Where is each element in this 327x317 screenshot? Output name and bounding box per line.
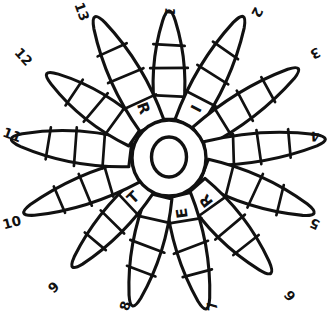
petal-number-label-10: 10 [1, 212, 23, 232]
petal-number-label-5: 5 [307, 215, 322, 233]
petal-number-label-1: 1 [162, 7, 179, 18]
petal-1-segment-divider [153, 44, 184, 46]
petal-number-label-4: 4 [310, 129, 320, 145]
petal-number-label-2: 2 [248, 5, 267, 21]
center-inner-hole [152, 137, 187, 177]
petal-number-label-13: 13 [72, 0, 93, 23]
petal-number-label-9: 9 [45, 278, 63, 296]
petal-4-segment-divider [233, 134, 234, 166]
petal-number-label-12: 12 [11, 44, 35, 69]
flower-center [132, 120, 206, 196]
flower-diagram-canvas: IRETR 12345678910111213 [0, 0, 327, 317]
petal-number-label-6: 6 [280, 287, 298, 304]
petal-number-label-3: 3 [308, 44, 324, 63]
flower-diagram-svg: IRETR 12345678910111213 [0, 0, 327, 317]
petal-4[interactable] [204, 132, 326, 165]
